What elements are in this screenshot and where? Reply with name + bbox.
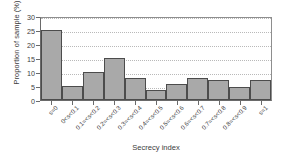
y-axis-tick-label: 0 [31,97,35,106]
bar [146,90,167,100]
bar [83,72,104,100]
y-axis-tick-label: 25 [27,27,35,36]
bar-slot [166,18,187,100]
x-axis-tick-label: s=1 [257,104,269,116]
bar-slot [229,18,250,100]
bar-slot [62,18,83,100]
bar [208,80,229,100]
bar-slot [104,18,125,100]
bar [166,84,187,100]
bar-slot [187,18,208,100]
bar [250,80,271,100]
bar [41,30,62,100]
y-axis-tick-label: 5 [31,83,35,92]
x-axis-tick-label: s=0 [46,104,58,116]
y-axis-tick-group: 051015202530 [0,17,40,101]
bar-slot [41,18,62,100]
y-axis-tick-label: 10 [27,69,35,78]
bar-chart-figure: Proportion of sample (%) 051015202530 s=… [0,0,292,161]
bar [187,78,208,100]
y-axis-tick-label: 20 [27,41,35,50]
x-axis-title: Secrecy index [40,143,272,152]
plot-area [40,17,272,101]
bar-slot [208,18,229,100]
bar [62,86,83,100]
y-axis-tick-label: 15 [27,55,35,64]
x-axis-tick-label-group: s=00<s<0.10.1=<s<0.20.2=<s<0.30.3=<s<0.4… [40,104,272,142]
bar-series [41,18,271,100]
bar [229,87,250,100]
bar [104,58,125,100]
bar-slot [83,18,104,100]
bar-slot [146,18,167,100]
bar [125,78,146,100]
bar-slot [125,18,146,100]
bar-slot [250,18,271,100]
y-axis-tick-label: 30 [27,13,35,22]
